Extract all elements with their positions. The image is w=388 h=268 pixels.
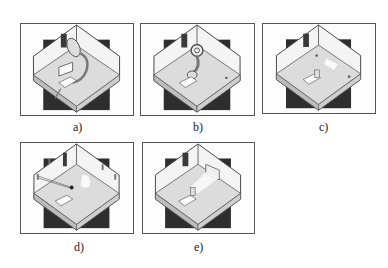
panel-c <box>262 23 376 114</box>
room-illustration-d <box>21 143 133 233</box>
room-illustration-a <box>21 24 133 115</box>
room-illustration-c <box>263 24 375 113</box>
room-illustration-e <box>143 143 254 233</box>
room-illustration-b <box>141 24 254 115</box>
caption-d: d) <box>74 240 84 255</box>
panel-d <box>20 142 134 234</box>
caption-a: a) <box>73 120 82 135</box>
caption-c: c) <box>319 120 328 135</box>
caption-b: b) <box>193 120 203 135</box>
panel-b <box>140 23 255 116</box>
panel-e <box>142 142 255 234</box>
caption-e: e) <box>194 240 203 255</box>
panel-a <box>20 23 134 116</box>
